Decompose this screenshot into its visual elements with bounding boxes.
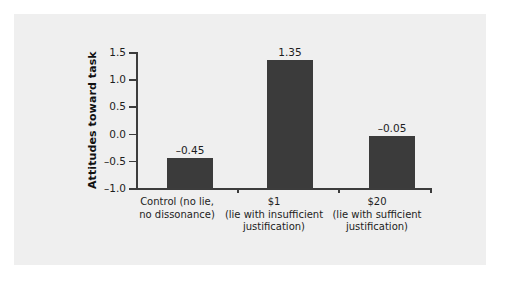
bar-twenty-dollar[interactable]: –0.05 — [369, 136, 415, 188]
y-axis-line — [136, 52, 138, 188]
y-tick-label: 0.0 — [109, 128, 126, 140]
y-tick-mark — [129, 106, 136, 108]
y-tick-label: 1.0 — [109, 73, 126, 85]
x-axis-line — [136, 188, 432, 190]
y-tick-mark — [129, 188, 136, 190]
bar-value-label: –0.45 — [176, 144, 205, 156]
plot-area: 1.5 1.0 0.5 0.0 –0.5 –1.0 –0.45 1.35 –0.… — [136, 52, 432, 188]
x-category-label-line: $20 — [315, 196, 439, 209]
y-tick-label: –0.5 — [104, 155, 126, 167]
bar-one-dollar[interactable]: 1.35 — [267, 60, 313, 188]
bar-value-label: 1.35 — [278, 46, 301, 58]
y-tick-mark — [129, 134, 136, 136]
x-tick-mark — [237, 188, 239, 193]
y-axis-title: Attitudes toward task — [86, 52, 99, 188]
figure-panel: Attitudes toward task 1.5 1.0 0.5 0.0 –0… — [14, 14, 486, 265]
x-category-label-line: (lie with sufficient — [315, 209, 439, 222]
x-tick-mark — [338, 188, 340, 193]
y-tick-label: –1.0 — [104, 182, 126, 194]
y-tick-mark — [129, 161, 136, 163]
bar-value-label: –0.05 — [378, 122, 407, 134]
x-category-label-line: justification) — [315, 221, 439, 234]
x-category-label-twenty-dollar: $20(lie with sufficientjustification) — [315, 196, 439, 234]
y-tick-label: 1.5 — [109, 46, 126, 58]
x-tick-mark — [430, 188, 432, 193]
y-tick-label: 0.5 — [109, 100, 126, 112]
y-tick-mark — [129, 52, 136, 54]
bar-control[interactable]: –0.45 — [167, 158, 213, 188]
y-tick-mark — [129, 79, 136, 81]
